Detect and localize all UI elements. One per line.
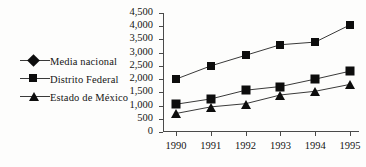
triangle-marker-icon xyxy=(20,90,50,104)
x-axis-tick-label: 1993 xyxy=(270,140,291,151)
data-point-marker xyxy=(346,21,354,29)
diamond-marker-icon xyxy=(20,54,50,68)
y-axis-tick: 0 xyxy=(159,132,163,133)
x-axis-tick xyxy=(211,132,212,136)
x-axis-tick xyxy=(315,132,316,136)
data-point-marker xyxy=(171,109,181,118)
data-point-marker xyxy=(275,91,285,100)
plot-area: 05001,0001,5002,0002,5003,0003,5004,0004… xyxy=(163,13,359,132)
y-axis-tick-label: 3,500 xyxy=(129,32,153,43)
x-axis-tick-label: 1991 xyxy=(200,140,221,151)
legend-label-distrito-federal: Distrito Federal xyxy=(50,74,119,85)
line-chart-figure: Media nacional Distrito Federal Estado d… xyxy=(0,0,366,167)
legend-label-estado-de-mexico: Estado de México xyxy=(50,92,128,103)
data-point-marker xyxy=(311,75,320,84)
x-axis-tick-label: 1990 xyxy=(166,140,187,151)
x-axis-tick xyxy=(176,132,177,136)
y-axis-tick-label: 2,500 xyxy=(129,59,153,70)
data-point-marker xyxy=(241,86,250,95)
x-axis-tick-label: 1994 xyxy=(305,140,326,151)
y-axis-tick-label: 1,000 xyxy=(129,99,153,110)
data-point-marker xyxy=(276,82,285,91)
data-point-marker xyxy=(310,87,320,96)
data-point-marker xyxy=(242,51,250,59)
data-point-marker xyxy=(206,103,216,112)
data-point-marker xyxy=(276,41,284,49)
data-point-marker xyxy=(311,38,319,46)
data-point-marker xyxy=(172,75,180,83)
x-axis-tick xyxy=(246,132,247,136)
square-marker-icon xyxy=(20,72,50,86)
y-axis-tick-label: 1,500 xyxy=(129,85,153,96)
x-axis-tick xyxy=(280,132,281,136)
y-axis-tick-label: 2,000 xyxy=(129,72,153,83)
data-point-marker xyxy=(207,62,215,70)
y-axis-tick-label: 4,000 xyxy=(129,19,153,30)
legend-label-media-nacional: Media nacional xyxy=(50,56,117,67)
data-point-marker xyxy=(346,67,355,76)
x-axis-tick-label: 1995 xyxy=(340,140,361,151)
data-point-marker xyxy=(172,100,181,109)
y-axis-tick-label: 500 xyxy=(137,112,153,123)
data-point-marker xyxy=(241,100,251,109)
x-axis-tick xyxy=(350,132,351,136)
data-point-marker xyxy=(345,80,355,89)
y-axis-tick-label: 4,500 xyxy=(129,6,153,17)
y-axis-tick-label: 0 xyxy=(148,125,153,136)
y-axis-tick-label: 3,000 xyxy=(129,46,153,57)
x-axis-tick-label: 1992 xyxy=(235,140,256,151)
series-line xyxy=(176,25,350,79)
series-lines xyxy=(163,13,359,132)
